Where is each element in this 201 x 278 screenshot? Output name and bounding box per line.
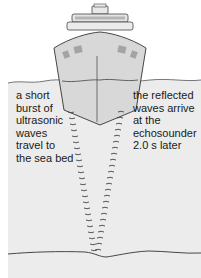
outgoing-waves-label: a short burst of ultrasonic waves travel… [16,89,76,164]
echosounder-diagram: a short burst of ultrasonic waves travel… [0,0,201,278]
ship-lower-deck [67,22,133,30]
reflected-waves-label: the reflected waves arrive at the echoso… [133,89,201,152]
